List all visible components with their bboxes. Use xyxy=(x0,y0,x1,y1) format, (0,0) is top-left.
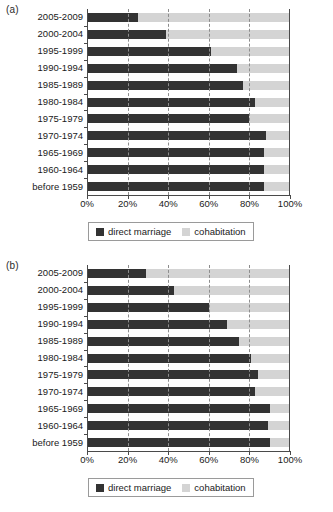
bar-segment-direct-marriage xyxy=(87,64,237,73)
y-axis-tick xyxy=(84,60,87,61)
bar-row xyxy=(87,98,290,107)
y-axis-tick-label: 2000-2004 xyxy=(38,284,83,295)
x-axis-tick-label: 100% xyxy=(278,454,302,465)
legend-a: direct marriagecohabitation xyxy=(88,222,254,241)
y-axis-tick xyxy=(84,417,87,418)
legend-item: cohabitation xyxy=(182,226,245,237)
bar-row xyxy=(87,131,290,140)
legend-swatch-icon xyxy=(182,228,190,236)
y-axis-tick xyxy=(84,94,87,95)
y-axis-tick xyxy=(84,110,87,111)
bar-row xyxy=(87,370,290,379)
y-axis-tick xyxy=(84,127,87,128)
bar-segment-direct-marriage xyxy=(87,81,243,90)
x-axis-tick-label: 80% xyxy=(240,198,259,209)
y-axis-tick-label: 1965-1969 xyxy=(38,147,83,158)
legend-label: cohabitation xyxy=(194,482,245,493)
gridline xyxy=(128,265,129,451)
y-axis-tick-label: 1965-1969 xyxy=(38,403,83,414)
y-axis-tick xyxy=(84,178,87,179)
bar-segment-direct-marriage xyxy=(87,269,146,278)
y-axis-tick-label: before 1959 xyxy=(32,437,83,448)
legend-item: direct marriage xyxy=(96,482,171,493)
y-axis-tick xyxy=(84,333,87,334)
bar-segment-direct-marriage xyxy=(87,387,255,396)
x-axis-tick-label: 40% xyxy=(159,454,178,465)
bar-row xyxy=(87,30,290,39)
bar-row xyxy=(87,81,290,90)
y-axis-tick-label: 1990-1994 xyxy=(38,318,83,329)
chart-panel-a: (a) 2005-20092000-20041995-19991990-1994… xyxy=(0,0,333,256)
y-axis-tick-label: 2005-2009 xyxy=(38,11,83,22)
gridline xyxy=(209,9,210,195)
legend-item: cohabitation xyxy=(182,482,245,493)
y-axis-tick xyxy=(84,316,87,317)
gridline xyxy=(168,9,169,195)
legend-b: direct marriagecohabitation xyxy=(88,478,254,497)
bar-segment-direct-marriage xyxy=(87,303,209,312)
bar-row xyxy=(87,337,290,346)
bar-segment-direct-marriage xyxy=(87,47,211,56)
bar-segment-direct-marriage xyxy=(87,404,270,413)
y-axis-tick-label: 2000-2004 xyxy=(38,28,83,39)
legend-label: direct marriage xyxy=(108,226,171,237)
bar-segment-direct-marriage xyxy=(87,354,251,363)
x-axis-tick-label: 0% xyxy=(80,454,94,465)
y-axis-tick-label: 1960-1964 xyxy=(38,164,83,175)
bar-segment-direct-marriage xyxy=(87,13,138,22)
y-axis-tick xyxy=(84,144,87,145)
bar-segment-direct-marriage xyxy=(87,30,166,39)
y-axis-tick-label: 1990-1994 xyxy=(38,62,83,73)
legend-label: cohabitation xyxy=(194,226,245,237)
gridline xyxy=(168,265,169,451)
bar-row xyxy=(87,404,290,413)
bar-segment-direct-marriage xyxy=(87,438,270,447)
y-axis-line-b xyxy=(87,265,88,451)
x-axis-tick-label: 60% xyxy=(199,454,218,465)
y-axis-tick xyxy=(84,282,87,283)
y-axis-tick-label: 1970-1974 xyxy=(38,130,83,141)
legend-swatch-icon xyxy=(182,484,190,492)
bar-row xyxy=(87,165,290,174)
y-axis-tick xyxy=(84,77,87,78)
x-axis-tick-label: 60% xyxy=(199,198,218,209)
x-axis-labels-a: 0%20%40%60%80%100% xyxy=(87,198,290,212)
bars-container-a xyxy=(87,9,290,195)
bar-row xyxy=(87,13,290,22)
y-axis-tick-label: 1975-1979 xyxy=(38,113,83,124)
plot-area-a xyxy=(87,9,290,195)
bar-row xyxy=(87,303,290,312)
bar-segment-direct-marriage xyxy=(87,421,268,430)
bar-row xyxy=(87,182,290,191)
bar-row xyxy=(87,286,290,295)
y-axis-tick-label: 1970-1974 xyxy=(38,386,83,397)
y-axis-tick-label: 1980-1984 xyxy=(38,352,83,363)
y-axis-labels-b: 2005-20092000-20041995-19991990-19941985… xyxy=(0,265,83,451)
legend-label: direct marriage xyxy=(108,482,171,493)
bar-row xyxy=(87,64,290,73)
x-axis-line-b xyxy=(87,451,290,452)
bar-segment-direct-marriage xyxy=(87,337,239,346)
y-axis-tick-label: 1980-1984 xyxy=(38,96,83,107)
bar-row xyxy=(87,269,290,278)
y-axis-tick xyxy=(84,350,87,351)
bar-row xyxy=(87,354,290,363)
bar-segment-direct-marriage xyxy=(87,182,264,191)
bar-row xyxy=(87,438,290,447)
bar-segment-direct-marriage xyxy=(87,98,255,107)
x-axis-tick-label: 20% xyxy=(118,198,137,209)
y-axis-line-a xyxy=(87,9,88,195)
y-axis-tick xyxy=(84,366,87,367)
bar-segment-direct-marriage xyxy=(87,286,174,295)
y-axis-tick xyxy=(84,434,87,435)
plot-area-b xyxy=(87,265,290,451)
y-axis-tick xyxy=(84,43,87,44)
x-axis-tick-label: 20% xyxy=(118,454,137,465)
y-axis-tick-label: 1985-1989 xyxy=(38,335,83,346)
y-axis-tick-label: 2005-2009 xyxy=(38,267,83,278)
y-axis-tick xyxy=(84,26,87,27)
gridline xyxy=(209,265,210,451)
y-axis-tick xyxy=(84,299,87,300)
x-axis-tick-label: 0% xyxy=(80,198,94,209)
legend-swatch-icon xyxy=(96,484,104,492)
